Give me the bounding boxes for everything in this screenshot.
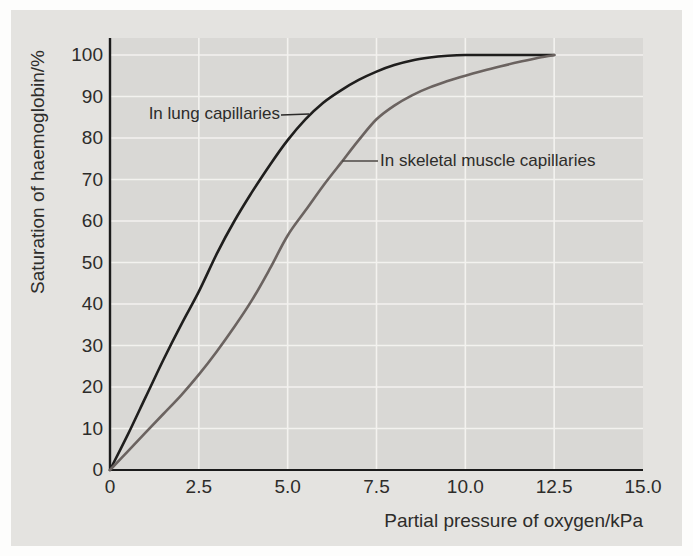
x-axis-title: Partial pressure of oxygen/kPa bbox=[384, 510, 643, 532]
y-tick-label-30: 30 bbox=[82, 335, 103, 357]
y-tick-label-10: 10 bbox=[82, 418, 103, 440]
y-tick-label-20: 20 bbox=[82, 376, 103, 398]
y-tick-label-90: 90 bbox=[82, 86, 103, 108]
x-tick-label-5.0: 5.0 bbox=[274, 476, 300, 498]
gridlines bbox=[110, 38, 643, 470]
y-tick-labels: 0102030405060708090100 bbox=[0, 0, 104, 556]
y-tick-label-50: 50 bbox=[82, 252, 103, 274]
y-tick-label-40: 40 bbox=[82, 293, 103, 315]
x-tick-label-12.5: 12.5 bbox=[536, 476, 573, 498]
x-tick-label-0: 0 bbox=[105, 476, 116, 498]
lung-label-leader-line bbox=[281, 114, 309, 115]
y-tick-label-60: 60 bbox=[82, 210, 103, 232]
muscle-curve-label: In skeletal muscle capillaries bbox=[380, 151, 595, 171]
x-tick-label-15.0: 15.0 bbox=[625, 476, 662, 498]
x-tick-label-2.5: 2.5 bbox=[186, 476, 212, 498]
oxygen-dissociation-figure: Saturation of haemoglobin/% Partial pres… bbox=[0, 0, 693, 556]
x-tick-label-7.5: 7.5 bbox=[363, 476, 389, 498]
x-tick-labels: 02.55.07.510.012.515.0 bbox=[0, 476, 693, 500]
y-tick-label-70: 70 bbox=[82, 169, 103, 191]
x-tick-label-10.0: 10.0 bbox=[447, 476, 484, 498]
lung-curve-label: In lung capillaries bbox=[149, 104, 280, 124]
y-tick-label-80: 80 bbox=[82, 127, 103, 149]
y-tick-label-100: 100 bbox=[71, 44, 103, 66]
